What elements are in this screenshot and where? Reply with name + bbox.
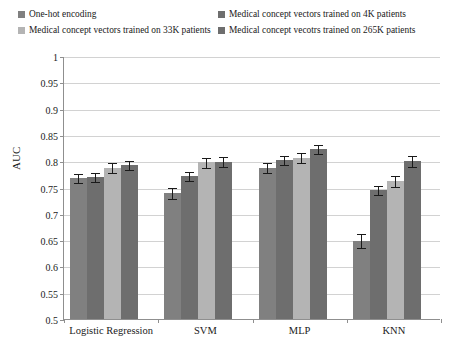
x-axis-tick	[64, 319, 65, 323]
error-bar-cap-top	[108, 163, 117, 164]
y-axis-title: AUC	[10, 147, 22, 170]
error-bar-cap-bottom	[280, 165, 289, 166]
bar	[293, 158, 310, 319]
bar	[198, 162, 215, 319]
error-bar-cap-top	[391, 176, 400, 177]
error-bar	[370, 186, 387, 197]
error-bar-cap-top	[185, 172, 194, 173]
legend-item-0: One-hot encoding	[18, 10, 96, 19]
error-bar-cap-bottom	[202, 168, 211, 169]
error-bar-cap-bottom	[391, 187, 400, 188]
error-bar-cap-top	[374, 186, 383, 187]
bar	[164, 193, 181, 319]
bar	[215, 162, 232, 319]
legend-label-3: Medical concept vecotrs trained on 265K …	[229, 26, 415, 35]
bar-group	[347, 57, 441, 319]
error-bar-cap-top	[168, 188, 177, 189]
error-bar	[87, 173, 104, 182]
error-bar-cap-top	[314, 145, 323, 146]
error-bar-cap-top	[74, 174, 83, 175]
error-bar-cap-top	[408, 156, 417, 157]
bar	[353, 241, 370, 319]
x-axis-label: KNN	[383, 325, 406, 336]
error-bar	[293, 153, 310, 165]
legend-swatch-icon-0	[18, 11, 25, 18]
bar-group	[64, 57, 158, 319]
error-bar-cap-bottom	[357, 248, 366, 249]
y-axis-label: 0.65	[41, 236, 59, 247]
bar	[276, 160, 293, 319]
legend-swatch-icon-2	[18, 27, 25, 34]
error-bar-cap-top	[91, 173, 100, 174]
x-axis-tick	[441, 319, 442, 323]
error-bar-cap-bottom	[297, 163, 306, 164]
bar	[181, 176, 198, 319]
error-bar-cap-top	[219, 157, 228, 158]
x-axis-label: MLP	[289, 325, 311, 336]
x-axis-tick	[253, 319, 254, 323]
y-axis-label: 0.8	[46, 157, 59, 168]
error-bar-cap-bottom	[74, 183, 83, 184]
error-bar	[276, 156, 293, 167]
error-bar	[198, 158, 215, 169]
y-axis-label: 0.6	[46, 262, 59, 273]
bar	[310, 149, 327, 319]
error-bar-line	[361, 234, 362, 249]
y-axis-label: 0.7	[46, 209, 59, 220]
bar	[121, 165, 138, 319]
error-bar	[215, 157, 232, 168]
error-bar	[164, 188, 181, 200]
bar	[104, 168, 121, 319]
y-axis-label: 1	[53, 52, 58, 63]
error-bar-cap-top	[357, 234, 366, 235]
error-bar-cap-bottom	[408, 167, 417, 168]
error-bar	[70, 174, 87, 183]
legend-swatch-icon-3	[218, 27, 225, 34]
error-bar-cap-bottom	[125, 170, 134, 171]
legend-item-3: Medical concept vecotrs trained on 265K …	[218, 26, 415, 35]
y-axis-label: 0.95	[41, 78, 59, 89]
legend-label-2: Medical concept vectors trained on 33K p…	[29, 26, 211, 35]
error-bar-cap-bottom	[168, 199, 177, 200]
x-axis-label: SVM	[194, 325, 217, 336]
error-bar	[353, 234, 370, 249]
plot-area: 10.950.90.850.80.750.70.650.60.550.5Logi…	[63, 57, 440, 320]
legend-swatch-icon-1	[218, 11, 225, 18]
y-axis-label: 0.55	[41, 288, 59, 299]
error-bar	[404, 156, 421, 168]
error-bar	[181, 172, 198, 183]
error-bar-cap-top	[297, 153, 306, 154]
bar-group	[158, 57, 252, 319]
error-bar-cap-bottom	[219, 167, 228, 168]
bar	[404, 161, 421, 319]
error-bar-cap-top	[280, 156, 289, 157]
error-bar-cap-bottom	[108, 173, 117, 174]
bar-group	[253, 57, 347, 319]
error-bar-cap-bottom	[91, 182, 100, 183]
bar	[259, 168, 276, 319]
chart-legend: One-hot encoding Medical concept vectors…	[18, 8, 438, 44]
y-axis-label: 0.5	[46, 315, 59, 326]
error-bar-cap-bottom	[314, 154, 323, 155]
legend-label-0: One-hot encoding	[29, 10, 96, 19]
legend-label-1: Medical concept vectors trained on 4K pa…	[229, 10, 406, 19]
legend-item-1: Medical concept vectors trained on 4K pa…	[218, 10, 406, 19]
bar	[370, 190, 387, 319]
error-bar	[259, 163, 276, 174]
y-axis-label: 0.85	[41, 130, 59, 141]
bar	[387, 181, 404, 319]
bar	[87, 177, 104, 319]
error-bar-cap-bottom	[374, 195, 383, 196]
error-bar	[387, 176, 404, 188]
x-axis-tick	[158, 319, 159, 323]
error-bar	[104, 163, 121, 174]
chart-container: One-hot encoding Medical concept vectors…	[0, 0, 454, 341]
y-axis-label: 0.75	[41, 183, 59, 194]
x-axis-label: Logistic Regression	[69, 325, 153, 336]
x-axis-tick	[347, 319, 348, 323]
bar	[70, 178, 87, 319]
error-bar	[121, 161, 138, 172]
legend-item-2: Medical concept vectors trained on 33K p…	[18, 26, 211, 35]
error-bar-cap-top	[125, 161, 134, 162]
error-bar-cap-top	[202, 158, 211, 159]
